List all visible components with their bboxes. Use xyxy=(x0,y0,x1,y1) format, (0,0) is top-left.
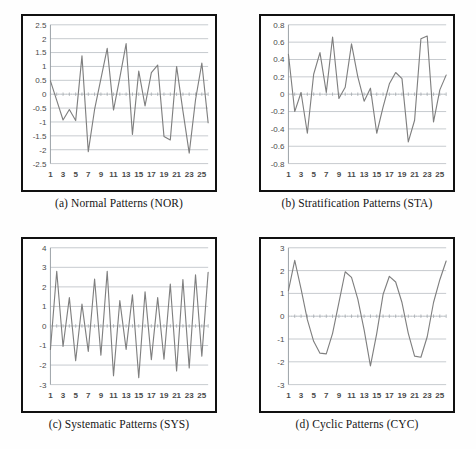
x-axis-tick-label: 15 xyxy=(134,391,143,400)
line-chart-systematic-patterns: 43210-1-2-3135791113151719212325 xyxy=(23,239,215,411)
y-axis-tick-label: -0.5 xyxy=(33,104,47,113)
x-axis-tick-label: 9 xyxy=(337,170,342,179)
panel-grid: 2.521.510.50-0.5-1-1.5-2-2.5135791113151… xyxy=(0,0,476,449)
plot-frame-d: 3210-1-2-3135791113151719212325 xyxy=(259,237,455,413)
panel-stratification-patterns: 0.80.60.40.20-0.2-0.4-0.6-0.813579111315… xyxy=(238,0,476,225)
x-axis-tick-label: 21 xyxy=(172,391,181,400)
panel-systematic-patterns: 43210-1-2-3135791113151719212325 (c) Sys… xyxy=(0,225,238,449)
y-axis-tick-label: 0.2 xyxy=(273,73,285,82)
x-axis-tick-label: 1 xyxy=(48,391,53,400)
y-axis-tick-label: 2.5 xyxy=(35,21,47,30)
x-axis-tick-label: 1 xyxy=(48,170,53,179)
y-axis-tick-label: -2 xyxy=(277,358,285,367)
y-axis-tick-label: 3 xyxy=(280,244,285,253)
x-axis-tick-label: 17 xyxy=(385,170,394,179)
x-axis-tick-label: 13 xyxy=(122,391,131,400)
x-axis-tick-label: 17 xyxy=(385,391,394,400)
x-axis-tick-label: 7 xyxy=(86,391,91,400)
y-axis-tick-label: -1 xyxy=(39,118,47,127)
x-axis-tick-label: 17 xyxy=(147,170,156,179)
y-axis-tick-label: 2 xyxy=(280,267,285,276)
caption-b: (b) Stratification Patterns (STA) xyxy=(282,197,433,209)
x-axis-tick-label: 25 xyxy=(197,170,206,179)
y-axis-tick-label: -1 xyxy=(39,341,47,350)
x-axis-tick-label: 17 xyxy=(147,391,156,400)
y-axis-tick-label: -2.5 xyxy=(33,160,47,169)
caption-a: (a) Normal Patterns (NOR) xyxy=(55,197,183,209)
x-axis-tick-label: 3 xyxy=(61,391,66,400)
x-axis-tick-label: 23 xyxy=(185,391,194,400)
plot-frame-c: 43210-1-2-3135791113151719212325 xyxy=(21,237,217,413)
x-axis-tick-label: 7 xyxy=(86,170,91,179)
x-axis-tick-label: 19 xyxy=(398,391,407,400)
x-axis-tick-label: 9 xyxy=(99,391,104,400)
data-series-line xyxy=(288,36,446,142)
x-axis-tick-label: 25 xyxy=(435,170,444,179)
x-axis-tick-label: 11 xyxy=(109,391,118,400)
line-chart-normal-patterns: 2.521.510.50-0.5-1-1.5-2-2.5135791113151… xyxy=(23,16,215,190)
y-axis-tick-label: -1.5 xyxy=(33,132,47,141)
x-axis-tick-label: 3 xyxy=(61,170,66,179)
y-axis-tick-label: 0.6 xyxy=(273,38,285,47)
x-axis-tick-label: 15 xyxy=(372,391,381,400)
y-axis-tick-label: -2 xyxy=(39,146,47,155)
line-chart-cyclic-patterns: 3210-1-2-3135791113151719212325 xyxy=(261,239,453,411)
y-axis-tick-label: 3 xyxy=(42,263,47,272)
x-axis-tick-label: 13 xyxy=(360,170,369,179)
x-axis-tick-label: 23 xyxy=(423,391,432,400)
x-axis-tick-label: 3 xyxy=(299,170,304,179)
x-axis-tick-label: 19 xyxy=(160,170,169,179)
x-axis-tick-label: 11 xyxy=(347,170,356,179)
y-axis-tick-label: 4 xyxy=(42,244,47,253)
x-axis-tick-label: 1 xyxy=(286,170,291,179)
plot-frame-b: 0.80.60.40.20-0.2-0.4-0.6-0.813579111315… xyxy=(259,14,455,192)
y-axis-tick-label: 0 xyxy=(280,90,285,99)
x-axis-tick-label: 5 xyxy=(73,391,78,400)
x-axis-tick-label: 15 xyxy=(134,170,143,179)
y-axis-tick-label: 2 xyxy=(42,283,47,292)
x-axis-tick-label: 23 xyxy=(423,170,432,179)
y-axis-tick-label: 1 xyxy=(42,302,47,311)
y-axis-tick-label: -3 xyxy=(39,381,47,390)
data-series-line xyxy=(50,271,208,378)
y-axis-tick-label: 0 xyxy=(42,322,47,331)
y-axis-tick-label: 0.4 xyxy=(273,55,285,64)
y-axis-tick-label: -0.2 xyxy=(271,107,285,116)
x-axis-tick-label: 13 xyxy=(360,391,369,400)
y-axis-tick-label: 0.5 xyxy=(35,76,47,85)
x-axis-tick-label: 9 xyxy=(99,170,104,179)
x-axis-tick-label: 19 xyxy=(160,391,169,400)
y-axis-tick-label: -0.4 xyxy=(271,125,285,134)
x-axis-tick-label: 7 xyxy=(324,391,329,400)
y-axis-tick-label: 2 xyxy=(42,35,47,44)
y-axis-tick-label: 0 xyxy=(280,312,285,321)
x-axis-tick-label: 11 xyxy=(109,170,118,179)
y-axis-tick-label: -0.8 xyxy=(271,160,285,169)
x-axis-tick-label: 25 xyxy=(197,391,206,400)
x-axis-tick-label: 21 xyxy=(410,391,419,400)
y-axis-tick-label: 1 xyxy=(42,62,47,71)
x-axis-tick-label: 21 xyxy=(410,170,419,179)
y-axis-tick-label: 1 xyxy=(280,289,285,298)
y-axis-tick-label: 0.8 xyxy=(273,21,285,30)
x-axis-tick-label: 9 xyxy=(337,391,342,400)
plot-frame-a: 2.521.510.50-0.5-1-1.5-2-2.5135791113151… xyxy=(21,14,217,192)
x-axis-tick-label: 7 xyxy=(324,170,329,179)
data-series-line xyxy=(288,260,446,366)
caption-c: (c) Systematic Patterns (SYS) xyxy=(49,418,190,430)
x-axis-tick-label: 1 xyxy=(286,391,291,400)
x-axis-tick-label: 5 xyxy=(311,391,316,400)
control-chart-pattern-figure: 2.521.510.50-0.5-1-1.5-2-2.5135791113151… xyxy=(0,0,476,449)
line-chart-stratification-patterns: 0.80.60.40.20-0.2-0.4-0.6-0.813579111315… xyxy=(261,16,453,190)
x-axis-tick-label: 21 xyxy=(172,170,181,179)
x-axis-tick-label: 19 xyxy=(398,170,407,179)
x-axis-tick-label: 13 xyxy=(122,170,131,179)
x-axis-tick-label: 5 xyxy=(311,170,316,179)
y-axis-tick-label: 0 xyxy=(42,90,47,99)
y-axis-tick-label: -1 xyxy=(277,335,285,344)
x-axis-tick-label: 5 xyxy=(73,170,78,179)
panel-cyclic-patterns: 3210-1-2-3135791113151719212325 (d) Cycl… xyxy=(238,225,476,449)
y-axis-tick-label: -0.6 xyxy=(271,142,285,151)
x-axis-tick-label: 3 xyxy=(299,391,304,400)
x-axis-tick-label: 23 xyxy=(185,170,194,179)
